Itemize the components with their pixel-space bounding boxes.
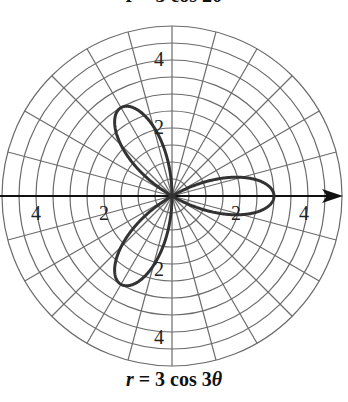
tick-label-y-neg-2: 2 xyxy=(154,258,164,280)
grid-spoke xyxy=(172,196,216,360)
caption-r: r xyxy=(126,368,134,390)
tick-label-y-pos-2: 2 xyxy=(154,116,164,138)
caption-theta: θ xyxy=(212,368,222,390)
caption-middle: = 3 cos 3 xyxy=(134,368,212,390)
grid-spoke xyxy=(172,152,336,196)
grid-spoke xyxy=(172,196,257,343)
chart-caption: r = 3 cos 3θ xyxy=(0,368,348,391)
grid-spoke xyxy=(128,32,172,196)
grid-spoke xyxy=(172,196,319,281)
tick-label-x-pos-4: 4 xyxy=(299,202,309,224)
grid-spoke xyxy=(172,32,216,196)
tick-label-x-neg-2: 2 xyxy=(99,202,109,224)
tick-label-x-neg-4: 4 xyxy=(31,202,41,224)
grid-spoke xyxy=(172,196,336,240)
tick-label-y-neg-4: 4 xyxy=(154,326,164,348)
grid-spoke xyxy=(8,152,172,196)
tick-label-y-pos-4: 4 xyxy=(154,48,164,70)
grid-spoke xyxy=(172,49,257,196)
grid-spoke xyxy=(128,196,172,360)
polar-plot: 4 2 2 4 4 2 2 4 xyxy=(0,0,348,402)
tick-label-x-pos-2: 2 xyxy=(231,202,241,224)
grid-spoke xyxy=(172,111,319,196)
